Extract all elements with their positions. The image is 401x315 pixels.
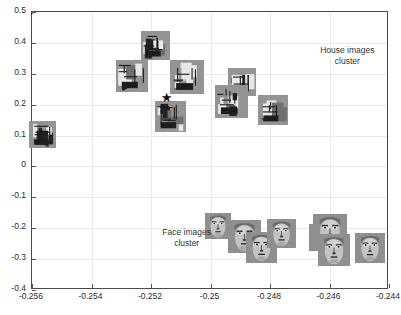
- house-cluster-annotation-line1: House images: [320, 45, 374, 55]
- y-axis-tick: [32, 105, 36, 106]
- cluster-centroid-star-marker: ★: [161, 91, 173, 104]
- x-axis-tick-label: -0.25: [192, 292, 228, 301]
- house-image-thumbnail: [116, 60, 148, 92]
- gridline-horizontal: [32, 166, 387, 167]
- house-image-thumbnail: [155, 101, 186, 132]
- x-axis-tick: [32, 284, 33, 288]
- y-axis-tick: [32, 228, 36, 229]
- plot-area: ★ House images cluster Face images clust…: [31, 11, 388, 289]
- scatter-plot-figure: 0.50.40.30.20.10-0.1-0.2-0.3-0.4 -0.256-…: [0, 0, 401, 315]
- x-axis-tick-label: -0.244: [370, 292, 401, 301]
- y-axis-tick: [32, 12, 36, 13]
- gridline-horizontal: [32, 74, 387, 75]
- y-axis-tick: [32, 290, 36, 291]
- face-cluster-annotation: Face images cluster: [155, 227, 219, 249]
- house-image-thumbnail: [29, 121, 56, 148]
- house-image-thumbnail: [170, 60, 204, 94]
- x-axis-tick-label: -0.256: [13, 292, 49, 301]
- house-image-thumbnail: [215, 85, 248, 118]
- x-axis-tick-label: -0.252: [132, 292, 168, 301]
- house-cluster-annotation: House images cluster: [315, 45, 379, 67]
- house-cluster-annotation-line2: cluster: [335, 56, 360, 66]
- y-axis-tick-label: 0: [0, 160, 26, 169]
- x-axis-tick: [211, 284, 212, 288]
- x-axis-tick-label: -0.246: [311, 292, 347, 301]
- x-axis-tick-label: -0.254: [73, 292, 109, 301]
- y-axis-tick-label: 0.2: [0, 99, 26, 108]
- gridline-horizontal: [32, 197, 387, 198]
- y-axis-tick: [32, 43, 36, 44]
- y-axis-tick: [32, 166, 36, 167]
- y-axis-tick-label: 0.1: [0, 130, 26, 139]
- x-axis-tick-label: -0.248: [251, 292, 287, 301]
- y-axis-tick-label: 0.5: [0, 6, 26, 15]
- house-image-thumbnail: [258, 95, 288, 125]
- house-image-thumbnail: [141, 31, 170, 60]
- gridline-horizontal: [32, 105, 387, 106]
- y-axis-tick-label: 0.3: [0, 68, 26, 77]
- face-cluster-annotation-line2: cluster: [174, 238, 199, 248]
- face-image-thumbnail: [267, 219, 296, 248]
- gridline-horizontal: [32, 136, 387, 137]
- y-axis-tick-label: 0.4: [0, 37, 26, 46]
- y-axis-tick-label: -0.3: [0, 253, 26, 262]
- y-axis-tick: [32, 259, 36, 260]
- y-axis-tick: [32, 197, 36, 198]
- x-axis-tick: [389, 284, 390, 288]
- face-cluster-annotation-line1: Face images: [162, 227, 211, 237]
- gridline-vertical: [92, 12, 93, 288]
- face-image-thumbnail: [318, 234, 350, 266]
- face-image-thumbnail: [355, 233, 385, 263]
- y-axis-tick-label: -0.2: [0, 222, 26, 231]
- y-axis-tick: [32, 74, 36, 75]
- x-axis-tick: [270, 284, 271, 288]
- x-axis-tick: [151, 284, 152, 288]
- x-axis-tick: [92, 284, 93, 288]
- y-axis-tick-label: -0.1: [0, 191, 26, 200]
- x-axis-tick: [330, 284, 331, 288]
